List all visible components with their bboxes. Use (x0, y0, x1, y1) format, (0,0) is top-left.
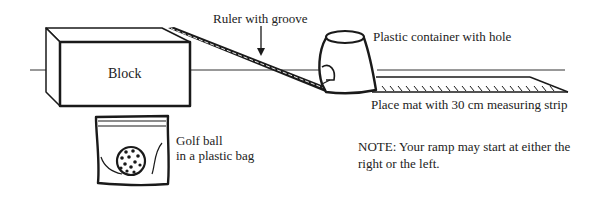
golf-ball-bag (96, 116, 169, 185)
golf-ball-label-line2: in a plastic bag (176, 148, 254, 163)
golf-ball-icon (117, 147, 145, 175)
place-mat (372, 77, 568, 92)
arrow-down-icon (257, 26, 265, 56)
block-label: Block (108, 66, 141, 81)
note-text: NOTE: Your ramp may start at either the … (358, 138, 598, 172)
measuring-strip-hatch (382, 86, 554, 91)
golf-ball-label: Golf ball in a plastic bag (176, 133, 254, 163)
ruler-label: Ruler with groove (213, 11, 308, 26)
golf-ball-label-line1: Golf ball (176, 133, 254, 148)
ruler (168, 27, 334, 93)
place-mat-label: Place mat with 30 cm measuring strip (371, 97, 567, 112)
container-label: Plastic container with hole (373, 29, 511, 44)
plastic-container (319, 31, 376, 93)
